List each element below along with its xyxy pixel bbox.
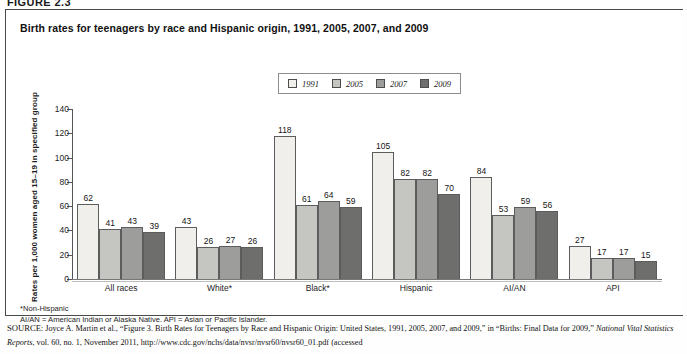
y-tick-label: 0 bbox=[64, 274, 69, 284]
bar[interactable]: 17 bbox=[591, 258, 613, 279]
bar-value-label: 56 bbox=[543, 200, 552, 210]
bar[interactable]: 26 bbox=[241, 247, 263, 279]
figure-page: FIGURE 2.3 Birth rates for teenagers by … bbox=[0, 0, 687, 354]
bar-value-label: 41 bbox=[105, 218, 114, 228]
x-axis-line bbox=[72, 279, 662, 280]
bar-group: 62414339All races bbox=[72, 109, 170, 279]
bar[interactable]: 82 bbox=[394, 179, 416, 279]
x-axis-category-label: API bbox=[606, 283, 620, 293]
bar-value-label: 61 bbox=[302, 194, 311, 204]
bar-set: 84535956 bbox=[470, 109, 558, 279]
bar-value-label: 82 bbox=[422, 168, 431, 178]
y-tick-label: 40 bbox=[60, 225, 69, 235]
bar-set: 105828270 bbox=[372, 109, 460, 279]
bar[interactable]: 105 bbox=[372, 152, 394, 280]
source-text-a: : Joyce A. Martin et al., “Figure 3. Bir… bbox=[41, 324, 596, 333]
bar-value-label: 53 bbox=[499, 204, 508, 214]
bar-value-label: 84 bbox=[477, 166, 486, 176]
bar-value-label: 27 bbox=[226, 235, 235, 245]
bar[interactable]: 82 bbox=[416, 179, 438, 279]
bar[interactable]: 43 bbox=[175, 227, 197, 279]
bar-value-label: 64 bbox=[324, 190, 333, 200]
bar-set: 62414339 bbox=[77, 109, 165, 279]
y-tick-label: 20 bbox=[60, 250, 69, 260]
bar-group: 43262726White* bbox=[170, 109, 268, 279]
source-prefix: SOURCE bbox=[7, 323, 41, 333]
x-axis-category-label: AI/AN bbox=[503, 283, 525, 293]
y-tick-label: 80 bbox=[60, 177, 69, 187]
bar[interactable]: 84 bbox=[470, 177, 492, 279]
bar-value-label: 15 bbox=[641, 250, 650, 260]
x-axis-category-label: Black* bbox=[306, 283, 330, 293]
y-tick-label: 120 bbox=[55, 128, 69, 138]
bar[interactable]: 118 bbox=[274, 136, 296, 279]
bar-group: 84535956AI/AN bbox=[465, 109, 563, 279]
bar[interactable]: 59 bbox=[340, 207, 362, 279]
bar-value-label: 26 bbox=[204, 236, 213, 246]
bar[interactable]: 61 bbox=[296, 205, 318, 279]
bar-value-label: 59 bbox=[521, 196, 530, 206]
source-text-b: , vol. 60, no. 1, November 2011, http://… bbox=[32, 338, 362, 347]
bar[interactable]: 70 bbox=[438, 194, 460, 279]
bar-value-label: 70 bbox=[444, 183, 453, 193]
source-note: SOURCE: Joyce A. Martin et al., “Figure … bbox=[7, 322, 679, 349]
y-tick-label: 140 bbox=[55, 104, 69, 114]
bar-value-label: 105 bbox=[376, 141, 390, 151]
bar-value-label: 43 bbox=[127, 216, 136, 226]
bar-set: 43262726 bbox=[175, 109, 263, 279]
bar-group: 118616459Black* bbox=[269, 109, 367, 279]
x-axis-category-label: All races bbox=[105, 283, 138, 293]
bar-value-label: 43 bbox=[182, 216, 191, 226]
x-axis-category-label: White* bbox=[207, 283, 232, 293]
bar[interactable]: 27 bbox=[569, 246, 591, 279]
bar-value-label: 118 bbox=[278, 125, 292, 135]
bar[interactable]: 26 bbox=[197, 247, 219, 279]
bar[interactable]: 56 bbox=[536, 211, 558, 279]
bar[interactable]: 27 bbox=[219, 246, 241, 279]
bar-value-label: 26 bbox=[248, 236, 257, 246]
bar-set: 27171715 bbox=[569, 109, 657, 279]
bar-value-label: 39 bbox=[149, 221, 158, 231]
footnote-nonhispanic: *Non-Hispanic bbox=[20, 303, 267, 314]
y-tick-label: 100 bbox=[55, 153, 69, 163]
y-axis-title-text: Rates per 1,000 women aged 15–19 in spec… bbox=[31, 92, 41, 302]
bar-value-label: 59 bbox=[346, 196, 355, 206]
bar-value-label: 17 bbox=[619, 247, 628, 257]
bar[interactable]: 41 bbox=[99, 229, 121, 279]
bar[interactable]: 62 bbox=[77, 204, 99, 279]
bar-group: 27171715API bbox=[564, 109, 662, 279]
bar-value-label: 27 bbox=[575, 235, 584, 245]
bar-set: 118616459 bbox=[274, 109, 362, 279]
x-axis-category-label: Hispanic bbox=[400, 283, 433, 293]
bar-value-label: 62 bbox=[83, 193, 92, 203]
bar[interactable]: 43 bbox=[121, 227, 143, 279]
bar[interactable]: 59 bbox=[514, 207, 536, 279]
bar[interactable]: 15 bbox=[635, 261, 657, 279]
axis-area: 020406080100120140 62414339All races4326… bbox=[72, 109, 662, 280]
bar-value-label: 17 bbox=[597, 247, 606, 257]
figure-border-box: Birth rates for teenagers by race and Hi… bbox=[5, 9, 683, 316]
y-axis-title: Rates per 1,000 women aged 15–19 in spec… bbox=[27, 114, 44, 280]
bar-value-label: 82 bbox=[400, 168, 409, 178]
bar[interactable]: 53 bbox=[492, 215, 514, 279]
plot-area: Rates per 1,000 women aged 15–19 in spec… bbox=[6, 10, 684, 317]
figure-number-label: FIGURE 2.3 bbox=[7, 0, 71, 8]
bar[interactable]: 39 bbox=[143, 232, 165, 279]
x-axis-shadow-line bbox=[72, 281, 662, 282]
bar-groups: 62414339All races43262726White*118616459… bbox=[72, 109, 662, 279]
bar[interactable]: 17 bbox=[613, 258, 635, 279]
bar-group: 105828270Hispanic bbox=[367, 109, 465, 279]
y-tick-label: 60 bbox=[60, 201, 69, 211]
bar[interactable]: 64 bbox=[318, 201, 340, 279]
